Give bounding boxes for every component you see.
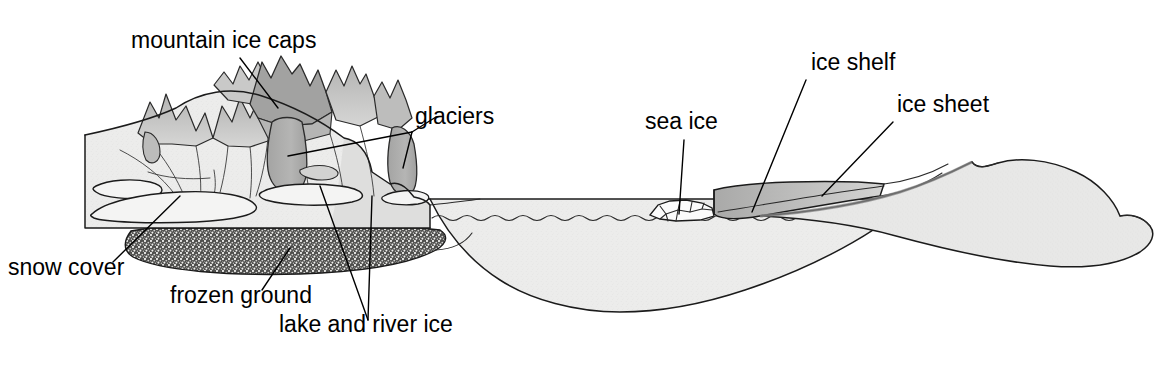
label-snow-cover: snow cover	[8, 254, 125, 280]
label-ice-sheet: ice sheet	[897, 91, 990, 117]
label-lake-and-river-ice: lake and river ice	[279, 311, 453, 337]
glacier-central	[267, 118, 307, 193]
diagram-canvas: mountain ice caps glaciers snow cover fr…	[0, 0, 1166, 378]
label-sea-ice: sea ice	[645, 108, 718, 134]
cryosphere-diagram: mountain ice caps glaciers snow cover fr…	[0, 0, 1166, 378]
label-mountain-ice-caps: mountain ice caps	[131, 27, 316, 53]
label-ice-shelf: ice shelf	[811, 49, 896, 75]
label-glaciers: glaciers	[415, 103, 494, 129]
label-frozen-ground: frozen ground	[170, 282, 312, 308]
snow-lobe-mid	[259, 184, 362, 205]
